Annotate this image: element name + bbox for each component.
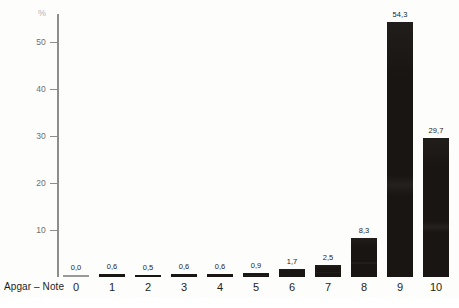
y-axis-tick-label: 50 [18, 37, 46, 47]
page-edge [0, 298, 459, 308]
y-axis-tick-label: 40 [18, 84, 46, 94]
y-axis-tick-label: 20 [18, 178, 46, 188]
bar[interactable] [99, 274, 125, 277]
bar-value-label: 54,3 [382, 10, 418, 19]
bar-value-label: 0,0 [58, 263, 94, 272]
bar-value-label: 8,3 [346, 226, 382, 235]
x-axis-title: Apgar – Note [4, 281, 64, 292]
x-axis-category-label: 10 [418, 281, 454, 293]
bar-value-label: 1,7 [274, 257, 310, 266]
bar[interactable] [351, 238, 377, 277]
bar-group[interactable]: 0,64 [202, 14, 238, 277]
y-axis-tick-mark [50, 136, 57, 137]
y-axis-tick-label: 30 [18, 131, 46, 141]
x-axis-category-label: 7 [310, 281, 346, 293]
y-axis-tick-mark [50, 183, 57, 184]
bar-value-label: 29,7 [418, 126, 454, 135]
y-axis-tick-mark [50, 89, 57, 90]
bar-value-label: 0,9 [238, 261, 274, 270]
bar[interactable] [279, 269, 305, 277]
bar-group[interactable]: 0,95 [238, 14, 274, 277]
bar-group[interactable]: 54,39 [382, 14, 418, 277]
bar-group[interactable]: 29,710 [418, 14, 454, 277]
y-axis-tick-mark [50, 230, 57, 231]
bar-group[interactable]: 0,63 [166, 14, 202, 277]
x-axis-category-label: 5 [238, 281, 274, 293]
bar[interactable] [207, 274, 233, 277]
x-axis-category-label: 1 [94, 281, 130, 293]
x-axis-category-label: 2 [130, 281, 166, 293]
bar-group[interactable]: 2,57 [310, 14, 346, 277]
bar-value-label: 0,6 [202, 262, 238, 271]
y-axis-unit-label: % [38, 8, 46, 18]
bar-value-label: 2,5 [310, 253, 346, 262]
bar-group[interactable]: 1,76 [274, 14, 310, 277]
bar[interactable] [135, 275, 161, 277]
bar[interactable] [387, 22, 413, 277]
bar-chart-figure: % 1020304050 0,000,610,520,630,640,951,7… [0, 0, 459, 308]
plot-area: 0,000,610,520,630,640,951,762,578,3854,3… [57, 14, 459, 277]
y-axis-tick-mark [50, 42, 57, 43]
bar-value-label: 0,6 [166, 262, 202, 271]
bar[interactable] [63, 275, 89, 277]
bar-value-label: 0,6 [94, 262, 130, 271]
x-axis-category-label: 4 [202, 281, 238, 293]
bar-group[interactable]: 0,52 [130, 14, 166, 277]
x-axis-category-label: 8 [346, 281, 382, 293]
bar-group[interactable]: 8,38 [346, 14, 382, 277]
bar[interactable] [243, 273, 269, 277]
x-axis-category-label: 6 [274, 281, 310, 293]
bar[interactable] [315, 265, 341, 277]
x-axis-category-label: 3 [166, 281, 202, 293]
bar[interactable] [171, 274, 197, 277]
x-axis-category-label: 9 [382, 281, 418, 293]
bar-group[interactable]: 0,00 [58, 14, 94, 277]
bar-value-label: 0,5 [130, 263, 166, 272]
bar-group[interactable]: 0,61 [94, 14, 130, 277]
y-axis-tick-label: 10 [18, 225, 46, 235]
bar[interactable] [423, 138, 449, 277]
